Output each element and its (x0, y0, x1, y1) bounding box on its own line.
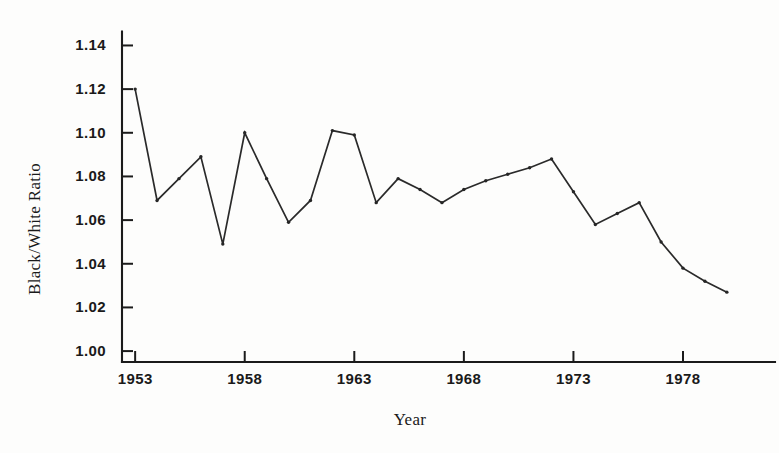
data-point-marker (375, 201, 378, 204)
data-point-marker (155, 199, 158, 202)
x-axis-ticks (135, 351, 683, 362)
data-point-marker (396, 177, 399, 180)
data-point-marker (550, 157, 553, 160)
data-point-marker (243, 131, 246, 134)
x-tick-label: 1978 (666, 370, 701, 387)
y-tick-label: 1.02 (75, 298, 106, 315)
data-point-marker (133, 87, 136, 90)
y-tick-label: 1.10 (75, 124, 106, 141)
data-point-marker (177, 177, 180, 180)
data-series-line (135, 89, 727, 292)
data-point-marker (572, 190, 575, 193)
data-point-marker (440, 201, 443, 204)
data-point-marker (594, 223, 597, 226)
line-chart: 1.001.021.041.061.081.101.121.14 1953195… (0, 0, 779, 453)
x-tick-label: 1973 (556, 370, 591, 387)
data-point-marker (681, 266, 684, 269)
figure-container: 1.001.021.041.061.081.101.121.14 1953195… (0, 0, 779, 453)
data-point-marker (462, 188, 465, 191)
x-tick-label: 1963 (337, 370, 372, 387)
data-point-marker (703, 280, 706, 283)
y-axis-title: Black/White Ratio (25, 163, 44, 295)
data-point-marker (265, 177, 268, 180)
data-point-marker (221, 242, 224, 245)
data-point-marker (331, 129, 334, 132)
y-axis-tick-labels: 1.001.021.041.061.081.101.121.14 (75, 36, 106, 359)
y-tick-label: 1.12 (75, 80, 106, 97)
data-point-marker (506, 173, 509, 176)
y-axis-group: 1.001.021.041.061.081.101.121.14 (75, 31, 133, 362)
data-point-marker (287, 221, 290, 224)
x-tick-label: 1953 (118, 370, 153, 387)
data-point-marker (616, 212, 619, 215)
x-axis-tick-labels: 195319581963196819731978 (118, 370, 701, 387)
y-tick-label: 1.00 (75, 342, 106, 359)
x-axis-group: 195319581963196819731978 (118, 351, 775, 387)
y-tick-label: 1.04 (75, 255, 106, 272)
data-point-marker (199, 155, 202, 158)
data-point-marker (725, 290, 728, 293)
x-tick-label: 1958 (227, 370, 262, 387)
y-tick-label: 1.06 (75, 211, 106, 228)
x-axis-title: Year (394, 410, 427, 429)
data-point-marker (309, 199, 312, 202)
y-tick-label: 1.08 (75, 167, 106, 184)
y-tick-label: 1.14 (75, 36, 106, 53)
data-point-marker (528, 166, 531, 169)
data-point-marker (659, 240, 662, 243)
x-tick-label: 1968 (446, 370, 481, 387)
plot-area (133, 87, 728, 293)
data-series-markers (133, 87, 728, 293)
y-axis-ticks (122, 45, 133, 351)
data-point-marker (418, 188, 421, 191)
data-point-marker (484, 179, 487, 182)
data-point-marker (637, 201, 640, 204)
data-point-marker (353, 133, 356, 136)
